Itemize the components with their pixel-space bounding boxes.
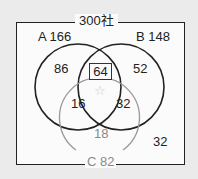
region-a-only: 86 — [54, 62, 68, 75]
region-none: 32 — [153, 135, 167, 148]
region-bc-only: 32 — [116, 97, 130, 110]
set-c-label: C 82 — [85, 155, 116, 168]
region-ac-only: 16 — [71, 97, 85, 110]
set-a-label: A 166 — [38, 30, 73, 43]
region-ab-only: 64 — [89, 63, 112, 80]
region-b-only: 52 — [133, 62, 147, 75]
total-label: 300社 — [75, 14, 118, 27]
set-b-label: B 148 — [134, 30, 170, 43]
region-abc-star: ☆ — [94, 84, 106, 97]
region-c-only: 18 — [94, 127, 108, 140]
